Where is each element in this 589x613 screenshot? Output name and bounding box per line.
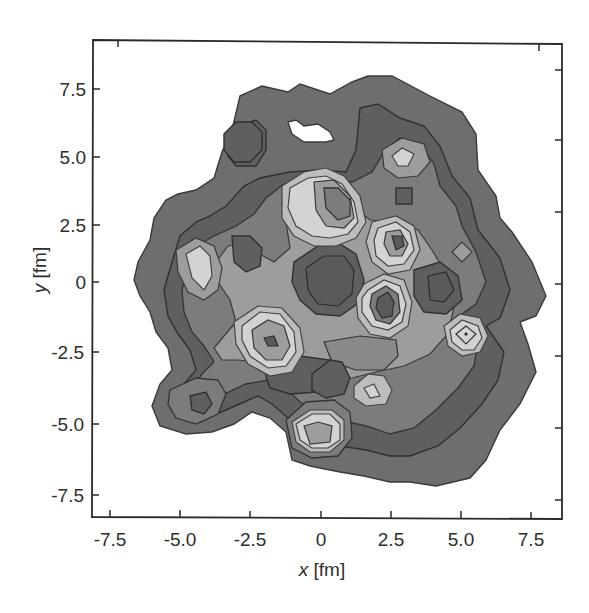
y-tick-label: -2.5 (51, 342, 84, 363)
x-tick-label: -5.0 (164, 529, 197, 550)
x-tick-label: 0 (316, 529, 327, 550)
contour-regions (134, 76, 546, 486)
x-axis-label: x [fm] (298, 559, 345, 580)
y-tick-label: -7.5 (51, 485, 84, 506)
contour-peak-dot (464, 332, 467, 335)
x-tick-label: 7.5 (518, 529, 544, 550)
y-tick-label: 5.0 (60, 147, 86, 168)
x-tick-label: -7.5 (94, 529, 127, 550)
y-tick-label: 2.5 (60, 215, 86, 236)
contour-plot: -7.5 -5.0 -2.5 0 2.5 5.0 7.5 7.5 5.0 2.5… (0, 0, 589, 613)
y-tick-label: 0 (75, 272, 86, 293)
y-axis-label: y [fm] (29, 247, 50, 295)
x-tick-label: 5.0 (448, 529, 474, 550)
y-tick-label: 7.5 (60, 79, 86, 100)
y-tick-label: -5.0 (51, 414, 84, 435)
contour-minimum (396, 188, 412, 204)
contour-minimum (224, 122, 262, 162)
x-tick-labels: -7.5 -5.0 -2.5 0 2.5 5.0 7.5 (94, 529, 545, 550)
y-tick-labels: 7.5 5.0 2.5 0 -2.5 -5.0 -7.5 (51, 79, 86, 506)
x-tick-label: 2.5 (378, 529, 404, 550)
x-tick-label: -2.5 (234, 529, 267, 550)
